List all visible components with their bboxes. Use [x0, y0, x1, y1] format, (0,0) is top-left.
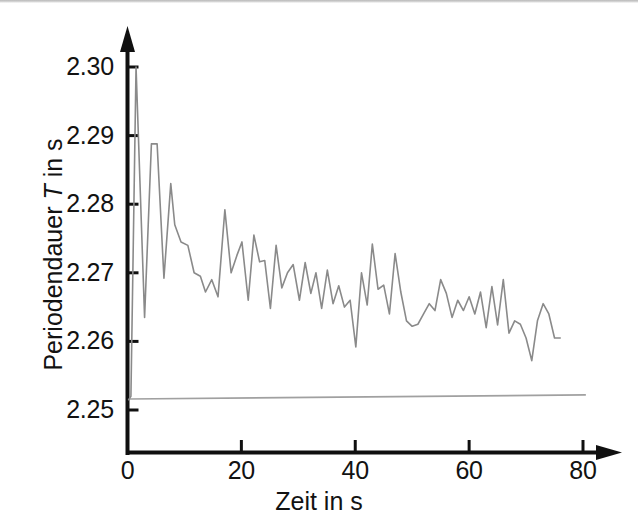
y-axis-tick-label: 2.25 — [30, 395, 114, 424]
y-axis-arrowhead — [120, 26, 135, 52]
y-axis-title-suffix: in s — [39, 138, 67, 184]
x-axis-tick-label: 80 — [543, 456, 623, 485]
y-axis-title-symbol: T — [39, 184, 67, 199]
reference-line — [129, 395, 586, 399]
x-axis-title: Zeit in s — [0, 487, 638, 516]
x-axis-tick-label: 20 — [201, 456, 281, 485]
x-axis-tick-label: 60 — [429, 456, 509, 485]
y-axis-tick-label: 2.30 — [30, 52, 114, 81]
data-series-line — [129, 67, 561, 400]
x-axis-tick-label: 0 — [88, 456, 168, 485]
x-axis-tick-label: 40 — [315, 456, 395, 485]
figure-chart: 2.252.262.272.282.292.30 020406080 Zeit … — [0, 0, 638, 527]
y-axis-title-prefix: Periodendauer — [39, 200, 67, 371]
y-axis-title: Periodendauer T in s — [39, 120, 68, 390]
